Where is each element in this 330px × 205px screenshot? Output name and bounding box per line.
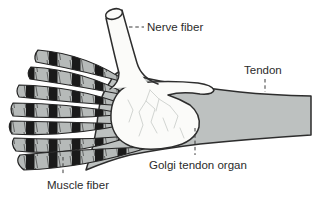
tendon-label: Tendon [244,64,282,76]
diagram-canvas: Nerve fiber Tendon Golgi tendon organ Mu… [0,0,330,205]
muscle-fiber-label: Muscle fiber [47,179,109,191]
golgi-tendon-organ-diagram: Nerve fiber Tendon Golgi tendon organ Mu… [0,0,330,205]
nerve-fiber-label: Nerve fiber [147,21,203,33]
golgi-tendon-organ-label: Golgi tendon organ [149,159,247,171]
